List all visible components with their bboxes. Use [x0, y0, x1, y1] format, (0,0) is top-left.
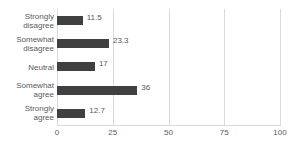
bar-value-label: 36: [141, 83, 150, 93]
bar-row: 11.5: [57, 9, 280, 32]
bar-value-label: 23.3: [113, 36, 129, 46]
category-label-line: disagree: [2, 21, 54, 30]
bar-value-label: 12.7: [89, 106, 105, 116]
bar-value-label: 17: [99, 59, 108, 69]
category-label-line: Neutral: [2, 63, 54, 72]
category-label-line: Somewhat: [2, 35, 54, 44]
x-tick-label-75: 75: [212, 128, 236, 138]
bar: [57, 39, 109, 48]
bar: [57, 86, 137, 95]
bar-row: 36: [57, 79, 280, 102]
bar-row: 23.3: [57, 32, 280, 55]
plot-area: 11.523.3173612.7: [57, 9, 280, 125]
category-label: Neutral: [2, 63, 54, 72]
category-label: Somewhatagree: [2, 81, 54, 99]
category-label-line: Strongly: [2, 12, 54, 21]
bar: [57, 16, 83, 25]
gridline-x-100: [280, 9, 281, 125]
category-axis-labels: StronglydisagreeSomewhatdisagreeNeutralS…: [0, 9, 54, 125]
category-label-line: Strongly: [2, 104, 54, 113]
bar-row: 12.7: [57, 102, 280, 125]
bar-row: 17: [57, 55, 280, 78]
bar-value-label: 11.5: [87, 13, 102, 23]
category-label-line: agree: [2, 90, 54, 99]
category-label: Stronglydisagree: [2, 12, 54, 30]
x-axis-line: [57, 125, 281, 126]
bar-chart: StronglydisagreeSomewhatdisagreeNeutralS…: [0, 0, 292, 142]
x-tick-label-0: 0: [45, 128, 69, 138]
clipped-title: [4, 0, 184, 2]
category-label-line: agree: [2, 113, 54, 122]
x-tick-label-50: 50: [157, 128, 181, 138]
category-label: Somewhatdisagree: [2, 35, 54, 53]
bar: [57, 62, 95, 71]
x-tick-label-100: 100: [268, 128, 292, 138]
category-label: Stronglyagree: [2, 104, 54, 122]
category-label-line: disagree: [2, 44, 54, 53]
bar: [57, 109, 85, 118]
category-label-line: Somewhat: [2, 81, 54, 90]
x-tick-label-25: 25: [101, 128, 125, 138]
